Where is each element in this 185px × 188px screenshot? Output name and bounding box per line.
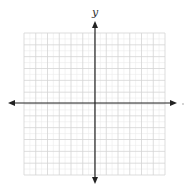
y-axis-down-arrow-icon [92, 177, 98, 184]
y-axis-label: y [91, 6, 99, 19]
y-axis-up-arrow-icon [92, 21, 98, 28]
x-axis-right-arrow-icon [170, 100, 177, 106]
x-axis-left-arrow-icon [8, 100, 15, 106]
axes [8, 21, 177, 184]
x-axis-end-mark [182, 103, 183, 104]
coordinate-plane: y [0, 0, 185, 188]
